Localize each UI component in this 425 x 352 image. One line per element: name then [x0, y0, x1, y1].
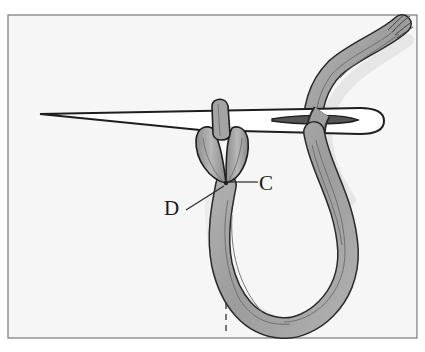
stitch-illustration: C D [0, 0, 425, 352]
label-d: D [164, 196, 179, 220]
wrap-top [212, 99, 230, 140]
label-c: C [259, 171, 273, 195]
knot-point [224, 181, 228, 185]
